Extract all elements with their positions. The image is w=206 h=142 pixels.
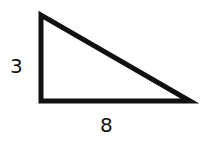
vertical-side-label: 3 (10, 56, 23, 76)
right-triangle (41, 15, 190, 101)
horizontal-side-label: 8 (100, 115, 113, 135)
